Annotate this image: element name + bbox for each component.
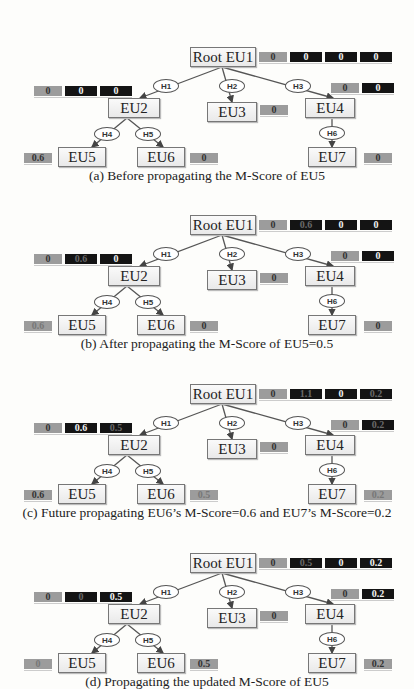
node-eu3: EU3 — [207, 102, 257, 122]
score-bars-eu5: 0.6 — [24, 153, 52, 165]
diagram-panel-a: Root EU1 EU2 EU3 EU4 EU5 EU6 EU7 H1 H2 H… — [0, 0, 414, 170]
edge-eu1-eu2 — [140, 235, 222, 266]
score-cell-eu1-0: 0 — [259, 389, 287, 399]
edge-label-h6: H6 — [319, 632, 345, 646]
edge-label-h6: H6 — [319, 463, 345, 477]
edge-label-h2: H2 — [219, 416, 245, 430]
score-cell-eu5-0: 0.6 — [24, 153, 52, 163]
score-cell-eu4-0: 0 — [331, 251, 359, 261]
node-eu2: EU2 — [108, 435, 160, 455]
node-eu1: Root EU1 — [190, 47, 256, 67]
score-bars-eu5: 0.6 — [24, 490, 52, 502]
edge-eu1-eu2 — [140, 67, 222, 98]
edge-label-h2: H2 — [219, 585, 245, 599]
score-bars-eu6: 0.5 — [190, 490, 218, 502]
node-eu4: EU4 — [305, 98, 355, 118]
score-bars-eu2: 000.5 — [34, 592, 132, 604]
score-bars-eu3: 0 — [260, 273, 288, 285]
score-bars-eu6: 0 — [190, 153, 218, 165]
node-eu7: EU7 — [308, 484, 356, 504]
score-cell-eu2-0: 0 — [34, 423, 62, 433]
node-eu4: EU4 — [305, 604, 355, 624]
edge-label-h3: H3 — [285, 416, 311, 430]
score-bars-eu7: 0 — [364, 321, 392, 333]
edge-label-h3: H3 — [285, 79, 311, 93]
diagram-panel-c: Root EU1 EU2 EU3 EU4 EU5 EU6 EU7 H1 H2 H… — [0, 337, 414, 507]
score-bars-eu1: 0000 — [259, 52, 392, 64]
edge-label-h4: H4 — [94, 295, 120, 309]
node-eu6: EU6 — [137, 484, 185, 504]
node-eu1: Root EU1 — [190, 553, 256, 573]
score-cell-eu1-0: 0 — [259, 52, 287, 62]
score-cell-eu3-0: 0 — [260, 105, 288, 115]
edge-label-h6: H6 — [319, 126, 345, 140]
edge-label-h6: H6 — [319, 294, 345, 308]
score-cell-eu2-1: 0 — [65, 86, 97, 96]
score-cell-eu1-3: 0 — [360, 52, 392, 62]
node-eu5: EU5 — [58, 653, 106, 673]
edge-label-h5: H5 — [135, 633, 161, 647]
score-cell-eu1-2: 0 — [325, 558, 357, 568]
node-eu5: EU5 — [58, 147, 106, 167]
score-cell-eu6-0: 0.5 — [190, 659, 218, 669]
score-cell-eu7-0: 0 — [364, 321, 392, 331]
score-cell-eu2-1: 0.6 — [65, 254, 97, 264]
score-cell-eu4-1: 0 — [362, 83, 394, 93]
edge-label-h2: H2 — [219, 79, 245, 93]
score-bars-eu4: 00 — [331, 251, 394, 263]
score-cell-eu4-0: 0 — [331, 83, 359, 93]
diagram-panel-b: Root EU1 EU2 EU3 EU4 EU5 EU6 EU7 H1 H2 H… — [0, 168, 414, 338]
score-cell-eu7-0: 0 — [364, 153, 392, 163]
score-cell-eu1-1: 0.6 — [290, 220, 322, 230]
node-eu5: EU5 — [58, 315, 106, 335]
score-cell-eu1-1: 0 — [290, 52, 322, 62]
panel-caption: (d) Propagating the updated M-Score of E… — [0, 674, 414, 689]
edge-label-h2: H2 — [219, 247, 245, 261]
edge-label-h1: H1 — [153, 247, 179, 261]
score-cell-eu3-0: 0 — [260, 611, 288, 621]
score-bars-eu1: 00.600 — [259, 220, 392, 232]
node-eu7: EU7 — [308, 315, 356, 335]
score-bars-eu5: 0.6 — [24, 321, 52, 333]
score-cell-eu4-1: 0.2 — [362, 589, 394, 599]
edge-label-h5: H5 — [135, 127, 161, 141]
score-cell-eu3-0: 0 — [260, 442, 288, 452]
score-bars-eu5: 0 — [24, 659, 52, 671]
score-cell-eu5-0: 0.6 — [24, 490, 52, 500]
score-cell-eu5-0: 0 — [24, 659, 52, 669]
score-cell-eu2-2: 0 — [100, 254, 132, 264]
score-cell-eu1-2: 0 — [325, 52, 357, 62]
node-eu7: EU7 — [308, 147, 356, 167]
node-eu2: EU2 — [108, 98, 160, 118]
node-eu1: Root EU1 — [190, 384, 256, 404]
edge-label-h1: H1 — [153, 416, 179, 430]
score-cell-eu2-1: 0 — [65, 592, 97, 602]
score-cell-eu6-0: 0.5 — [190, 490, 218, 500]
node-eu6: EU6 — [137, 653, 185, 673]
node-eu6: EU6 — [137, 315, 185, 335]
node-eu2: EU2 — [108, 604, 160, 624]
score-cell-eu5-0: 0.6 — [24, 321, 52, 331]
score-cell-eu7-0: 0.2 — [364, 490, 392, 500]
node-eu3: EU3 — [207, 439, 257, 459]
score-cell-eu1-0: 0 — [259, 220, 287, 230]
score-cell-eu1-3: 0.2 — [360, 558, 392, 568]
score-cell-eu1-0: 0 — [259, 558, 287, 568]
score-bars-eu3: 0 — [260, 442, 288, 454]
score-cell-eu2-0: 0 — [34, 86, 62, 96]
edge-label-h4: H4 — [94, 127, 120, 141]
score-cell-eu2-2: 0.5 — [100, 423, 132, 433]
score-bars-eu4: 00.2 — [331, 589, 394, 601]
edge-label-h1: H1 — [153, 79, 179, 93]
score-bars-eu7: 0 — [364, 153, 392, 165]
score-bars-eu6: 0.5 — [190, 659, 218, 671]
score-cell-eu1-1: 1.1 — [290, 389, 322, 399]
score-cell-eu2-2: 0 — [100, 86, 132, 96]
node-eu3: EU3 — [207, 608, 257, 628]
score-cell-eu6-0: 0 — [190, 321, 218, 331]
score-cell-eu2-2: 0.5 — [100, 592, 132, 602]
score-cell-eu4-1: 0.2 — [362, 420, 394, 430]
score-cell-eu2-0: 0 — [34, 254, 62, 264]
node-eu1: Root EU1 — [190, 215, 256, 235]
edge-label-h4: H4 — [94, 633, 120, 647]
